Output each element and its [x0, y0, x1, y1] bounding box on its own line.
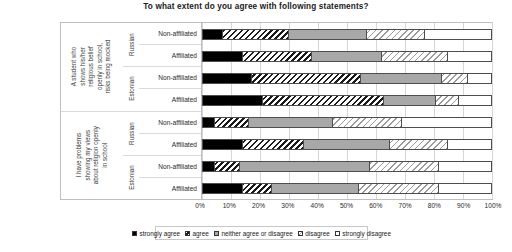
bar-row[interactable] [202, 111, 492, 133]
bars-column [201, 23, 492, 199]
segment-disagree [359, 184, 440, 193]
bar-row[interactable] [202, 89, 492, 111]
legend-item-neither[interactable]: neither agree or disagree [214, 230, 293, 237]
language-label-column: Russian Estonian Russian Estonian [123, 23, 139, 199]
segment-agree [243, 140, 303, 149]
segment-neither [304, 140, 390, 149]
x-axis-tick-label: 60% [369, 202, 382, 209]
bar-track [202, 29, 492, 40]
statement-line: in school [101, 126, 110, 184]
gridline [492, 23, 493, 199]
segment-neither [384, 96, 436, 105]
segment-agree [243, 184, 272, 193]
segment-agree [243, 52, 312, 61]
segment-strongly-agree [203, 162, 215, 171]
x-axis-tick-label: 90% [457, 202, 470, 209]
segment-strongly-agree [203, 96, 263, 105]
segment-strongly-disagree [402, 118, 491, 127]
segment-strongly-disagree [439, 184, 491, 193]
segment-strongly-agree [203, 140, 243, 149]
affiliation-label: Non-affiliated [139, 112, 201, 134]
legend-label: neither agree or disagree [221, 230, 292, 237]
segment-disagree [370, 162, 439, 171]
segment-strongly-disagree [439, 162, 491, 171]
legend-swatch-icon [214, 231, 219, 236]
x-axis-tick-label: 70% [398, 202, 411, 209]
legend-label: strongly disagree [342, 230, 391, 237]
segment-disagree [390, 140, 448, 149]
legend-label: disagree [305, 230, 330, 237]
segment-disagree [333, 118, 402, 127]
bar-row[interactable] [202, 133, 492, 155]
bar-track [202, 183, 492, 194]
plot-area: A student who shows his/her religious be… [60, 22, 493, 200]
bar-track [202, 73, 492, 84]
segment-neither [240, 162, 370, 171]
segment-agree [215, 118, 250, 127]
language-label-cell: Russian [123, 112, 139, 156]
bar-row[interactable] [202, 177, 492, 199]
language-label: Estonian [128, 77, 135, 102]
statement-line: risks being mocked [105, 40, 114, 94]
affiliation-label: Affiliated [139, 45, 201, 67]
legend-item-strongly-agree[interactable]: strongly agree [132, 230, 180, 237]
bar-track [202, 161, 492, 172]
segment-strongly-agree [203, 52, 243, 61]
x-axis-tick-label: 40% [311, 202, 324, 209]
segment-neither [289, 30, 367, 39]
chart-title: To what extent do you agree with followi… [0, 2, 512, 11]
statement-label-0: A student who shows his/her religious be… [71, 40, 114, 94]
legend-swatch-icon [298, 231, 303, 236]
legend-label: agree [193, 230, 209, 237]
segment-strongly-agree [203, 184, 243, 193]
affiliation-label: Non-affiliated [139, 23, 201, 45]
statement-line: religious belief [88, 40, 97, 94]
segment-strongly-disagree [448, 52, 491, 61]
statement-label-cell: A student who shows his/her religious be… [61, 23, 123, 112]
bar-row[interactable] [202, 23, 492, 45]
x-axis-tick-label: 0% [195, 202, 205, 209]
bar-row[interactable] [202, 155, 492, 177]
segment-disagree [367, 30, 425, 39]
bar-row[interactable] [202, 67, 492, 89]
language-label-cell: Estonian [123, 156, 139, 199]
segment-agree [252, 74, 361, 83]
statement-label-1: I have problems showing my views about r… [75, 126, 109, 184]
affiliation-label-column: Non-affiliated Affiliated Non-affiliated… [139, 23, 201, 199]
segment-agree [263, 96, 384, 105]
affiliation-label: Affiliated [139, 178, 201, 199]
x-axis-tick-label: 80% [428, 202, 441, 209]
x-axis-tick-label: 10% [223, 202, 236, 209]
segment-strongly-agree [203, 118, 215, 127]
affiliation-label: Non-affiliated [139, 67, 201, 89]
statement-line: openly in school, [96, 40, 105, 94]
segment-disagree [436, 96, 459, 105]
statement-line: A student who [71, 40, 80, 94]
x-axis-tick-label: 100% [485, 202, 502, 209]
segment-agree [215, 162, 241, 171]
legend-item-agree[interactable]: agree [185, 230, 209, 237]
bar-track [202, 139, 492, 150]
x-axis-tick-label: 50% [340, 202, 353, 209]
segment-agree [223, 30, 289, 39]
legend-item-disagree[interactable]: disagree [298, 230, 330, 237]
chart-root: To what extent do you agree with followi… [0, 0, 512, 252]
x-axis-tick-label: 20% [252, 202, 265, 209]
segment-neither [249, 118, 333, 127]
bar-track [202, 51, 492, 62]
segment-disagree [382, 52, 448, 61]
segment-strongly-disagree [448, 140, 491, 149]
statement-line: showing my views [83, 126, 92, 184]
segment-neither [272, 184, 358, 193]
statement-line: shows his/her [79, 40, 88, 94]
legend-item-strongly-disagree[interactable]: strongly disagree [335, 230, 391, 237]
legend-swatch-icon [132, 231, 137, 236]
bar-row[interactable] [202, 45, 492, 67]
segment-strongly-disagree [468, 74, 491, 83]
language-label-cell: Russian [123, 23, 139, 67]
legend-label: strongly agree [140, 230, 181, 237]
bar-track [202, 117, 492, 128]
language-label: Russian [128, 122, 135, 145]
segment-strongly-agree [203, 30, 223, 39]
segment-strongly-agree [203, 74, 252, 83]
